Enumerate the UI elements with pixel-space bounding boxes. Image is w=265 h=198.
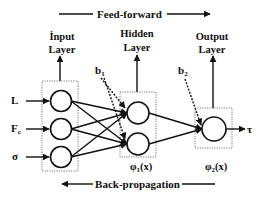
output-activation-label: φ2(x) <box>205 161 228 174</box>
svg-text:İnput: İnput <box>49 31 75 42</box>
output-layer-title: Output Layer <box>196 31 229 55</box>
hidden-layer-title: Hidden Layer <box>120 28 153 53</box>
input-neuron-2 <box>51 119 72 140</box>
input-neuron-1 <box>51 91 72 112</box>
output-neuron <box>202 117 226 141</box>
svg-text:σ: σ <box>12 150 18 162</box>
svg-text:L: L <box>11 94 18 106</box>
neural-network-diagram: Feed-forward İnput Layer Hidden Layer Ou… <box>0 0 265 198</box>
input-L: L <box>11 94 49 106</box>
hidden-output-connections <box>149 113 202 144</box>
input-hidden-connections <box>71 101 127 157</box>
output-tau-label: τ <box>247 123 252 135</box>
hidden-activation-label: φ1(x) <box>130 161 153 174</box>
svg-text:Layer: Layer <box>49 44 76 55</box>
input-neuron-3 <box>51 147 72 168</box>
back-propagation-label: Back-propagation <box>95 178 180 190</box>
bias-b2-connection <box>185 79 201 125</box>
input-layer-title: İnput Layer <box>49 31 76 55</box>
input-sigma: σ <box>12 150 49 162</box>
svg-text:Hidden: Hidden <box>120 28 153 39</box>
feed-forward-indicator: Feed-forward <box>59 8 210 20</box>
feed-forward-label: Feed-forward <box>97 8 162 20</box>
back-propagation-indicator: Back-propagation <box>62 178 215 190</box>
input-Fc: Fc <box>11 122 49 136</box>
svg-text:Output: Output <box>196 31 229 42</box>
bias-b1-label: b1 <box>95 64 105 78</box>
hidden-neuron-2 <box>127 133 149 155</box>
bias-b2-label: b2 <box>178 64 188 78</box>
svg-text:Fc: Fc <box>11 122 21 136</box>
svg-text:Layer: Layer <box>124 42 151 53</box>
svg-text:Layer: Layer <box>199 44 226 55</box>
hidden-neuron-1 <box>127 102 149 124</box>
